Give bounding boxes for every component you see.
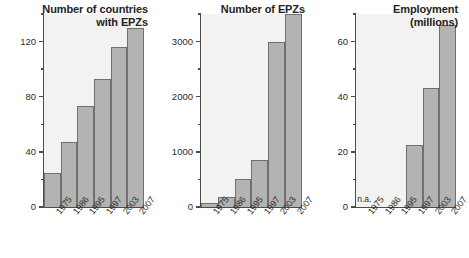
x-axis: 197519861995199720032007 xyxy=(201,207,302,257)
y-tick-label: 0 xyxy=(31,202,36,212)
bar-slot xyxy=(389,14,406,207)
tick-mark xyxy=(351,96,356,97)
tick-mark xyxy=(41,68,44,69)
tick-mark xyxy=(41,179,44,180)
y-tick-label: 60 xyxy=(337,37,348,47)
tick-mark xyxy=(353,124,356,125)
chart-panel-epzs: Number of EPZs 0100020003000 19751986199… xyxy=(152,0,309,258)
bar-slot xyxy=(111,14,128,207)
bar-slot xyxy=(94,14,111,207)
tick-mark xyxy=(198,124,201,125)
tick-mark xyxy=(198,13,201,14)
tick-mark xyxy=(196,96,201,97)
bar-slot xyxy=(77,14,94,207)
bar-2007 xyxy=(127,28,144,207)
tick-mark xyxy=(196,151,201,152)
y-tick-label: 3000 xyxy=(172,37,193,47)
tick-mark xyxy=(198,179,201,180)
bar-slot xyxy=(439,14,456,207)
y-tick-label: 1000 xyxy=(172,147,193,157)
y-tick-label: 40 xyxy=(337,92,348,102)
bar-2003 xyxy=(268,42,285,207)
tick-mark xyxy=(353,13,356,14)
tick-mark xyxy=(39,96,44,97)
bar-2007 xyxy=(285,14,302,207)
bar-slot xyxy=(127,14,144,207)
y-tick-label: 0 xyxy=(343,202,348,212)
bar-1975 xyxy=(44,173,61,207)
bar-1997 xyxy=(94,79,111,207)
y-tick-label: 20 xyxy=(337,147,348,157)
bar-series: n.a. xyxy=(356,14,456,207)
tick-mark xyxy=(41,13,44,14)
chart-panel-employment: Employment (millions) n.a. 0204060 19751… xyxy=(309,0,462,258)
plot-area: 0100020003000 197519861995199720032007 xyxy=(200,14,302,208)
tick-mark xyxy=(39,151,44,152)
bar-slot xyxy=(251,14,268,207)
bar-slot xyxy=(201,14,218,207)
bar-series xyxy=(201,14,302,207)
chart-panel-countries: Number of countries with EPZs 04080120 1… xyxy=(0,0,152,258)
y-tick-label: 40 xyxy=(25,147,36,157)
bar-slot xyxy=(61,14,78,207)
bar-slot xyxy=(373,14,390,207)
tick-mark xyxy=(351,41,356,42)
bar-series xyxy=(44,14,144,207)
bar-slot xyxy=(44,14,61,207)
tick-mark xyxy=(351,151,356,152)
bar-slot xyxy=(268,14,285,207)
y-tick-label: 120 xyxy=(20,37,36,47)
bar-slot xyxy=(218,14,235,207)
na-label: n.a. xyxy=(357,194,371,204)
bar-2003 xyxy=(111,47,128,207)
tick-mark xyxy=(198,68,201,69)
y-tick-label: 2000 xyxy=(172,92,193,102)
bar-slot xyxy=(235,14,252,207)
plot-area: 04080120 197519861995199720032007 xyxy=(43,14,144,208)
bar-slot xyxy=(406,14,423,207)
bar-2003 xyxy=(423,88,440,207)
y-tick-label: 80 xyxy=(25,92,36,102)
tick-mark xyxy=(39,41,44,42)
bar-1995 xyxy=(77,106,94,207)
bar-2007 xyxy=(439,25,456,207)
tick-mark xyxy=(353,68,356,69)
tick-mark xyxy=(196,41,201,42)
y-tick-label: 0 xyxy=(188,202,193,212)
tick-mark xyxy=(41,124,44,125)
x-axis: 197519861995199720032007 xyxy=(356,207,456,257)
bar-slot xyxy=(423,14,440,207)
bar-slot xyxy=(285,14,302,207)
plot-area: n.a. 0204060 197519861995199720032007 xyxy=(355,14,456,208)
bar-slot: n.a. xyxy=(356,14,373,207)
tick-mark xyxy=(353,179,356,180)
x-axis: 197519861995199720032007 xyxy=(44,207,144,257)
